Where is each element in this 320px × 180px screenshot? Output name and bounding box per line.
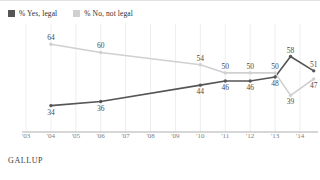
- x-axis-tick-label: '03: [22, 132, 30, 140]
- data-point-marker: [49, 43, 52, 46]
- x-axis-tick-label: '10: [196, 132, 204, 140]
- data-point-marker: [99, 51, 102, 54]
- legend-label-no: % No, not legal: [84, 9, 133, 18]
- data-point-label: 50: [246, 62, 254, 71]
- data-point-marker: [248, 71, 251, 74]
- data-point-label: 54: [197, 54, 205, 63]
- data-point-label: 48: [271, 79, 279, 88]
- data-point-label: 50: [271, 62, 279, 71]
- legend-swatch-no: [73, 10, 80, 17]
- x-axis-tick-label: '11: [221, 132, 229, 140]
- legend-item-no: % No, not legal: [73, 9, 133, 18]
- data-point-label: 51: [310, 60, 318, 69]
- chart-canvas: 34364446464858516460545050503947: [0, 24, 320, 134]
- data-point-label: 47: [310, 81, 318, 90]
- data-point-label: 39: [287, 97, 295, 106]
- data-point-label: 34: [47, 108, 55, 117]
- data-point-marker: [224, 71, 227, 74]
- x-axis-tick-label: '07: [121, 132, 129, 140]
- x-axis-tick-labels: '03'04'05'06'07'08'09'10'11'12'13'14: [0, 132, 320, 144]
- x-axis-tick-label: '14: [296, 132, 304, 140]
- data-point-label: 46: [222, 83, 230, 92]
- data-point-marker: [273, 71, 276, 74]
- data-point-label: 64: [47, 33, 55, 42]
- data-point-label: 44: [197, 87, 205, 96]
- series-lines: [51, 44, 314, 105]
- chart-legend: % Yes, legal % No, not legal: [8, 9, 133, 18]
- gridlines: [26, 24, 300, 132]
- legend-label-yes: % Yes, legal: [19, 9, 57, 18]
- data-point-marker: [199, 63, 202, 66]
- top-border: [0, 0, 320, 2]
- x-axis-tick-label: '09: [171, 132, 179, 140]
- x-axis-tick-label: '13: [271, 132, 279, 140]
- data-point-label: 46: [246, 83, 254, 92]
- data-point-label: 60: [97, 41, 105, 50]
- data-point-label: 36: [97, 104, 105, 113]
- data-point-marker: [289, 55, 292, 58]
- x-axis-tick-label: '06: [97, 132, 105, 140]
- data-point-marker: [312, 69, 315, 72]
- x-axis-tick-label: '08: [146, 132, 154, 140]
- x-axis-tick-label: '12: [246, 132, 254, 140]
- x-axis-tick-label: '04: [47, 132, 55, 140]
- data-point-label: 58: [287, 46, 295, 55]
- series-markers: [49, 43, 315, 108]
- source-attribution: GALLUP: [8, 156, 43, 165]
- data-point-label: 50: [222, 62, 230, 71]
- x-axis-tick-label: '05: [72, 132, 80, 140]
- legend-item-yes: % Yes, legal: [8, 9, 57, 18]
- legend-swatch-yes: [8, 10, 15, 17]
- line-chart-plot: 34364446464858516460545050503947: [0, 24, 320, 134]
